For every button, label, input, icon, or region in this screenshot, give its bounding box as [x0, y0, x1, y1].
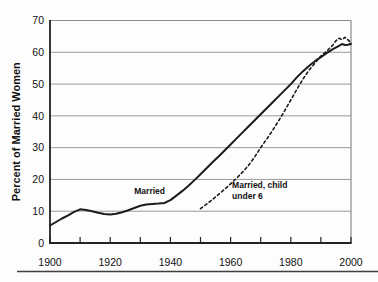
- x-tick-label-1940: 1940: [159, 256, 183, 268]
- y-tick-label-70: 70: [32, 14, 44, 26]
- married-women-line-chart: 010203040506070190019201940196019802000P…: [0, 0, 378, 282]
- y-tick-label-20: 20: [32, 173, 44, 185]
- y-tick-label-30: 30: [32, 141, 44, 153]
- y-tick-label-40: 40: [32, 110, 44, 122]
- x-tick-label-1920: 1920: [99, 256, 123, 268]
- x-tick-label-1900: 1900: [38, 256, 62, 268]
- x-tick-label-2000: 2000: [339, 256, 363, 268]
- series-line-0-married: [50, 44, 351, 226]
- y-tick-label-60: 60: [32, 46, 44, 58]
- y-tick-label-10: 10: [32, 205, 44, 217]
- label-married: Married: [134, 186, 165, 196]
- label-married-child-under-6: Married, childunder 6: [232, 180, 287, 201]
- x-tick-label-1980: 1980: [279, 256, 303, 268]
- x-tick-label-1960: 1960: [219, 256, 243, 268]
- figure: 010203040506070190019201940196019802000P…: [0, 0, 378, 282]
- y-axis-title: Percent of Married Women: [10, 62, 22, 201]
- y-tick-label-50: 50: [32, 78, 44, 90]
- y-tick-label-0: 0: [38, 237, 44, 249]
